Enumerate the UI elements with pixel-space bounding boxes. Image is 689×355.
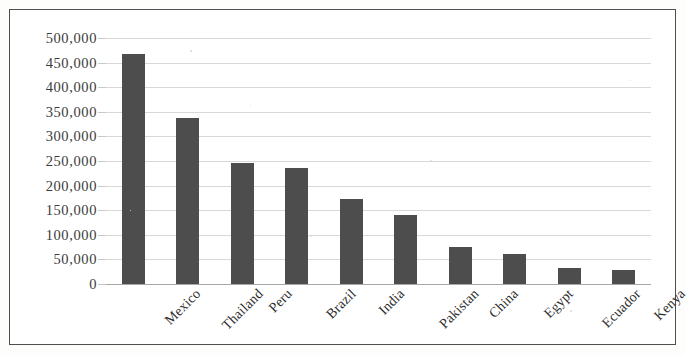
- bar-kenya: [612, 270, 635, 284]
- bars-group: [106, 38, 651, 284]
- bar-egypt: [503, 254, 526, 284]
- y-tick-label: 300,000: [46, 128, 97, 145]
- x-label-brazil: Brazil: [323, 286, 359, 322]
- chart-border-frame: 050,000100,000150,000200,000250,000300,0…: [9, 9, 676, 345]
- y-tick-label: 0: [89, 276, 97, 293]
- y-tick-label: 400,000: [46, 79, 97, 96]
- y-tick-mark: [98, 161, 106, 162]
- x-label-peru: Peru: [266, 286, 296, 316]
- y-tick-mark: [98, 87, 106, 88]
- y-tick-label: 50,000: [54, 251, 97, 268]
- y-tick-mark: [98, 210, 106, 211]
- bar-peru: [231, 163, 254, 284]
- scan-speckle: [430, 160, 432, 162]
- y-tick-label: 350,000: [46, 103, 97, 120]
- y-tick-mark: [98, 63, 106, 64]
- y-tick-mark: [98, 38, 106, 39]
- scan-speckle: [250, 105, 251, 106]
- plot-area: 050,000100,000150,000200,000250,000300,0…: [106, 38, 651, 284]
- x-label-china: China: [486, 286, 522, 322]
- y-tick-mark: [98, 136, 106, 137]
- y-tick-label: 200,000: [46, 177, 97, 194]
- bar-china: [449, 247, 472, 284]
- axis-baseline: [106, 284, 651, 285]
- scan-speckle: [190, 50, 192, 52]
- scan-speckle: [130, 210, 131, 211]
- y-tick-mark: [98, 112, 106, 113]
- y-tick-label: 150,000: [46, 202, 97, 219]
- scan-speckle: [310, 235, 312, 237]
- bar-mexico: [122, 54, 145, 284]
- scan-speckle: [570, 310, 572, 312]
- y-tick-mark: [98, 259, 106, 260]
- y-tick-mark: [98, 284, 106, 285]
- x-label-thailand: Thailand: [219, 286, 267, 334]
- bar-india: [340, 199, 363, 284]
- y-tick-mark: [98, 235, 106, 236]
- y-tick-label: 250,000: [46, 153, 97, 170]
- x-label-ecuador: Ecuador: [599, 286, 644, 331]
- scan-speckle: [630, 80, 631, 81]
- x-label-pakistan: Pakistan: [436, 286, 482, 332]
- bar-ecuador: [558, 268, 581, 284]
- x-label-mexico: Mexico: [162, 286, 204, 328]
- y-tick-label: 100,000: [46, 226, 97, 243]
- y-tick-mark: [98, 186, 106, 187]
- x-axis-category-labels: MexicoThailandPeruBrazilIndiaPakistanChi…: [106, 286, 651, 355]
- y-tick-label: 450,000: [46, 54, 97, 71]
- bar-thailand: [176, 118, 199, 284]
- y-tick-label: 500,000: [46, 30, 97, 47]
- bar-brazil: [285, 168, 308, 284]
- bar-pakistan: [394, 215, 417, 284]
- x-label-india: India: [376, 286, 408, 318]
- x-label-egypt: Egypt: [541, 286, 577, 322]
- x-label-kenya: Kenya: [651, 286, 689, 324]
